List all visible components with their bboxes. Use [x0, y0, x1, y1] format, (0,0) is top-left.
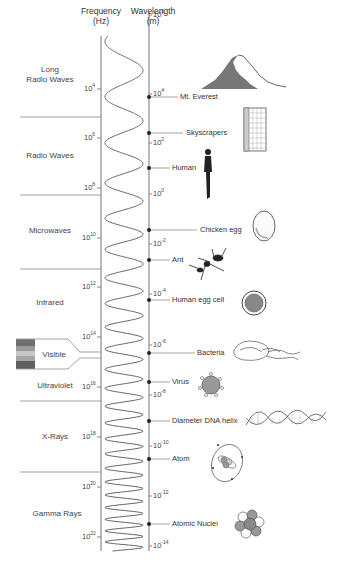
egg-cell-icon: [242, 291, 266, 315]
wl-tick: 106: [153, 8, 164, 19]
band-x-rays: X-Rays: [30, 432, 80, 442]
object-label-mt-everest: Mt. Everest: [180, 92, 218, 101]
wl-tick: 100: [153, 187, 164, 198]
wl-tick: 102: [153, 136, 164, 147]
wl-tick: 10-14: [153, 539, 169, 550]
bacteria-icon: [234, 341, 300, 360]
wl-tick: 10-4: [153, 287, 166, 298]
object-label-atom: Atom: [172, 454, 190, 463]
mountain-icon: [201, 55, 286, 89]
band-infrared: Infrared: [18, 298, 82, 308]
ant-icon: [189, 248, 226, 280]
freq-tick: 1022: [82, 530, 96, 541]
virus-icon: [199, 373, 224, 397]
object-label-human: Human: [172, 163, 196, 172]
dna-helix-icon: [246, 410, 326, 425]
band-dividers: [20, 117, 101, 472]
band-visible: Visible: [38, 350, 70, 360]
band-gamma: Gamma Rays: [22, 509, 92, 519]
freq-tick: 1010: [82, 231, 96, 242]
wave-curve: [105, 36, 143, 551]
object-label-ant: Ant: [172, 255, 183, 264]
egg-icon: [253, 211, 275, 241]
object-label-bacteria: Bacteria: [197, 348, 225, 357]
object-label-skyscrapers: Skyscrapers: [186, 128, 227, 137]
freq-tick: 1014: [82, 330, 96, 341]
wl-tick: 10-12: [153, 489, 169, 500]
freq-tick: 1018: [82, 430, 96, 441]
human-icon: [204, 149, 212, 199]
freq-tick: 1012: [82, 280, 96, 291]
band-microwaves: Microwaves: [18, 226, 82, 236]
object-label-chicken-egg: Chicken egg: [200, 225, 242, 234]
freq-tick: 108: [84, 181, 95, 192]
wl-tick: 10-2: [153, 237, 166, 248]
freq-tick: 106: [84, 131, 95, 142]
freq-tick: 1016: [82, 380, 96, 391]
nucleus-icon: [235, 510, 264, 538]
wl-tick: 10-10: [153, 439, 169, 450]
freq-tick: 104: [84, 82, 95, 93]
object-label-atomic-nuclei: Atomic Nuclei: [172, 519, 218, 528]
wl-tick: 10-6: [153, 338, 166, 349]
wl-tick: 10-8: [153, 388, 166, 399]
band-radio: Radio Waves: [18, 151, 82, 161]
freq-tick: 1020: [82, 480, 96, 491]
wl-tick: 104: [153, 87, 164, 98]
band-ultraviolet: Ultraviolet: [30, 381, 80, 391]
band-label: Radio Waves: [18, 75, 82, 85]
object-label-human-egg-cell: Human egg cell: [172, 295, 224, 304]
object-label-virus: Virus: [172, 377, 189, 386]
band-label: Long: [18, 65, 82, 75]
band-long-radio: Long Radio Waves: [18, 65, 82, 85]
atom-icon: [206, 440, 247, 486]
skyscraper-icon: [244, 108, 266, 151]
object-label-dna-helix: Diameter DNA helix: [172, 416, 237, 425]
